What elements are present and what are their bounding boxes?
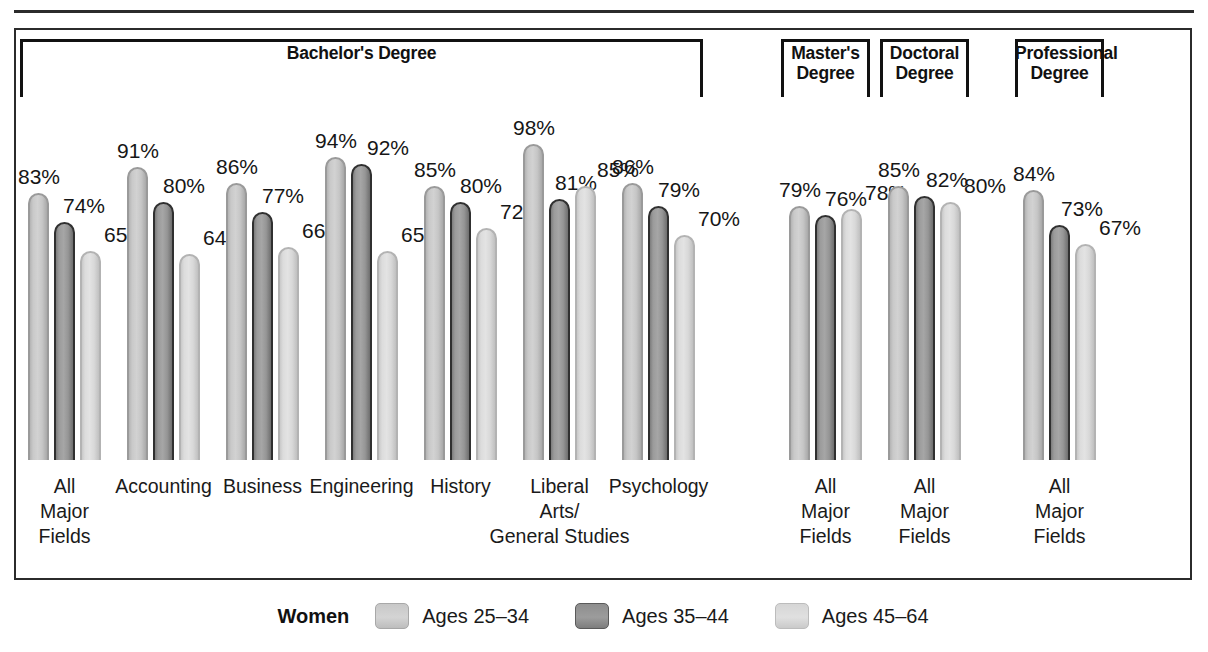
- bar[interactable]: [815, 215, 836, 460]
- bar-value-label: 85%: [414, 159, 456, 181]
- bar[interactable]: [1049, 225, 1070, 460]
- category-label-line: Arts/: [470, 499, 650, 524]
- chart-page: Bachelor's DegreeMaster'sDegreeDoctoralD…: [0, 0, 1208, 652]
- bar[interactable]: [226, 183, 247, 460]
- bar-value-label: 82%: [926, 169, 968, 191]
- group-label-line: Degree: [1015, 63, 1104, 83]
- bar[interactable]: [1075, 244, 1096, 460]
- group-label: Master'sDegree: [781, 43, 870, 83]
- bar[interactable]: [351, 164, 372, 460]
- chart-frame: Bachelor's DegreeMaster'sDegreeDoctoralD…: [14, 28, 1192, 580]
- bar[interactable]: [325, 157, 346, 460]
- bar-value-label: 74%: [63, 195, 105, 217]
- bar[interactable]: [888, 186, 909, 460]
- category-label-line: Major: [0, 499, 155, 524]
- category-label: Psychology: [569, 474, 749, 499]
- bar[interactable]: [841, 209, 862, 460]
- legend-label-ages-35-44: Ages 35–44: [622, 605, 729, 628]
- bar[interactable]: [54, 222, 75, 460]
- bar[interactable]: [940, 202, 961, 460]
- bar-value-label: 79%: [658, 179, 700, 201]
- group-label: DoctoralDegree: [880, 43, 969, 83]
- bar-value-label: 70%: [698, 208, 740, 230]
- bar[interactable]: [179, 254, 200, 460]
- bar[interactable]: [914, 196, 935, 460]
- legend-item-ages-25-34[interactable]: Ages 25–34: [375, 603, 529, 629]
- top-rule: [14, 10, 1194, 13]
- bar-value-label: 92%: [367, 137, 409, 159]
- group-label: Bachelor's Degree: [20, 43, 703, 63]
- bar-value-label: 83%: [18, 166, 60, 188]
- bar-value-label: 98%: [513, 117, 555, 139]
- bar-value-label: 80%: [964, 175, 1006, 197]
- bar-value-label: 86%: [612, 156, 654, 178]
- bar-value-label: 73%: [1061, 198, 1103, 220]
- legend-label-ages-25-34: Ages 25–34: [422, 605, 529, 628]
- group-label: ProfessionalDegree: [1015, 43, 1104, 83]
- bar-value-label: 67%: [1099, 217, 1141, 239]
- category-label: AllMajorFields: [970, 474, 1150, 549]
- bar-value-label: 79%: [779, 179, 821, 201]
- category-label-line: Fields: [970, 524, 1150, 549]
- bar-value-label: 91%: [117, 140, 159, 162]
- bar[interactable]: [127, 167, 148, 460]
- bar[interactable]: [80, 251, 101, 460]
- category-label-line: All: [970, 474, 1150, 499]
- bar[interactable]: [153, 202, 174, 460]
- bar-value-label: 80%: [460, 175, 502, 197]
- legend-swatch-icon-ages-25-34: [375, 603, 409, 629]
- category-label-line: Psychology: [569, 474, 749, 499]
- group-label-line: Bachelor's Degree: [20, 43, 703, 63]
- bar[interactable]: [28, 193, 49, 460]
- bar-value-label: 86%: [216, 156, 258, 178]
- bar[interactable]: [549, 199, 570, 460]
- bar[interactable]: [523, 144, 544, 460]
- bar[interactable]: [252, 212, 273, 460]
- legend-swatch-icon-ages-45-64: [775, 603, 809, 629]
- bar-value-label: 84%: [1013, 163, 1055, 185]
- legend-label-ages-45-64: Ages 45–64: [822, 605, 929, 628]
- bar[interactable]: [575, 186, 596, 460]
- group-label-line: Degree: [781, 63, 870, 83]
- bar-value-label: 85%: [878, 159, 920, 181]
- plot-area: Bachelor's DegreeMaster'sDegreeDoctoralD…: [16, 30, 1194, 582]
- scan-artifact: [983, 561, 985, 571]
- chart-legend: Women Ages 25–34 Ages 35–44 Ages 45–64: [14, 596, 1192, 636]
- bar[interactable]: [622, 183, 643, 460]
- legend-swatch-icon-ages-35-44: [575, 603, 609, 629]
- legend-item-ages-35-44[interactable]: Ages 35–44: [575, 603, 729, 629]
- category-label-line: Fields: [0, 524, 155, 549]
- bar-value-label: 77%: [262, 185, 304, 207]
- bar-value-label: 94%: [315, 130, 357, 152]
- group-label-line: Professional: [1015, 43, 1104, 63]
- bar[interactable]: [674, 235, 695, 460]
- legend-item-ages-45-64[interactable]: Ages 45–64: [775, 603, 929, 629]
- bar[interactable]: [450, 202, 471, 460]
- bar[interactable]: [648, 206, 669, 460]
- bar-value-label: 76%: [825, 188, 867, 210]
- group-label-line: Degree: [880, 63, 969, 83]
- group-label-line: Master's: [781, 43, 870, 63]
- category-label-line: General Studies: [470, 524, 650, 549]
- bar[interactable]: [278, 247, 299, 460]
- bar[interactable]: [476, 228, 497, 460]
- bar[interactable]: [1023, 190, 1044, 460]
- bar[interactable]: [789, 206, 810, 460]
- bar-value-label: 80%: [163, 175, 205, 197]
- group-label-line: Doctoral: [880, 43, 969, 63]
- legend-title: Women: [277, 605, 349, 628]
- bar[interactable]: [424, 186, 445, 460]
- category-label-line: Major: [970, 499, 1150, 524]
- bar[interactable]: [377, 251, 398, 460]
